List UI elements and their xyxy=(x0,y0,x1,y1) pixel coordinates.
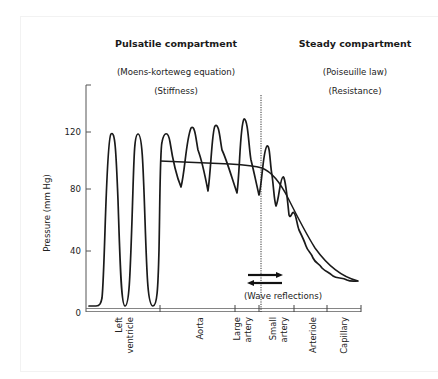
x-label-small-artery-1: Small xyxy=(268,317,278,340)
x-label-large-artery-2: artery xyxy=(243,317,253,342)
y-axis-label: Pressure (mm Hg) xyxy=(42,174,52,252)
y-tick-80: 80 xyxy=(70,184,81,194)
x-label-large-artery-1: Large xyxy=(232,317,242,341)
x-axis xyxy=(86,305,361,312)
mean-pressure-line xyxy=(160,161,358,281)
y-tick-0: 0 xyxy=(76,308,81,318)
x-label-aorta: Aorta xyxy=(195,317,205,340)
arrow-left-icon xyxy=(247,280,254,286)
x-label-left-ventricle-1: Left xyxy=(114,316,124,332)
arrow-right-icon xyxy=(276,272,283,278)
wave-reflections-label: (Wave reflections) xyxy=(244,291,322,301)
x-label-arteriole: Arteriole xyxy=(308,317,318,353)
y-axis: 120 80 40 0 Pressure (mm Hg) xyxy=(42,85,91,318)
wave-reflection-arrows xyxy=(247,272,283,286)
x-label-capillary: Capillary xyxy=(339,317,349,354)
x-label-left-ventricle-2: ventricle xyxy=(125,317,135,354)
x-label-small-artery-2: artery xyxy=(279,317,289,342)
y-tick-40: 40 xyxy=(70,246,81,256)
y-tick-120: 120 xyxy=(65,127,81,137)
pressure-waveform xyxy=(89,119,358,306)
x-axis-labels: Left ventricle Aorta Large artery Small … xyxy=(114,316,349,354)
